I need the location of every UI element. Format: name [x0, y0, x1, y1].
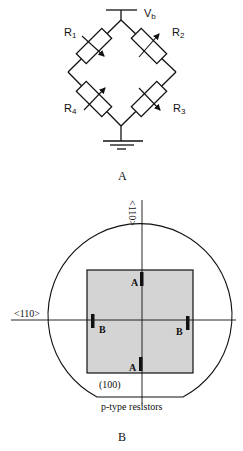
- vertical-axis-label: <110>: [127, 200, 138, 226]
- wheatstone-bridge: [68, 10, 176, 149]
- resistor-label-r2: R2: [172, 26, 185, 40]
- label-a-top: A: [131, 277, 139, 288]
- resistor-label-r1: R1: [64, 26, 77, 40]
- label-b-right: B: [176, 326, 183, 337]
- supply-label: Vb: [144, 7, 156, 21]
- label-a-bottom: A: [129, 362, 137, 373]
- resistor-label-r3: R3: [173, 102, 186, 116]
- resistor-label-r4: R4: [64, 102, 77, 116]
- resistor-type-label: p-type resistors: [101, 401, 162, 412]
- label-b-left: B: [99, 324, 106, 335]
- orientation-label: (100): [99, 379, 121, 391]
- resistor-r1: [76, 28, 111, 63]
- resistor-b-right: [186, 316, 190, 330]
- resistor-a-bottom: [139, 357, 143, 371]
- resistor-a-top: [140, 272, 144, 286]
- diagram-canvas: Vb R1 R2 R3 R4 A A A B B <110> <110> (10…: [0, 0, 243, 451]
- horizontal-axis-label: <110>: [14, 308, 40, 319]
- figure-b-caption: B: [118, 430, 126, 444]
- resistor-b-left: [91, 314, 95, 328]
- figure-a-caption: A: [118, 169, 127, 183]
